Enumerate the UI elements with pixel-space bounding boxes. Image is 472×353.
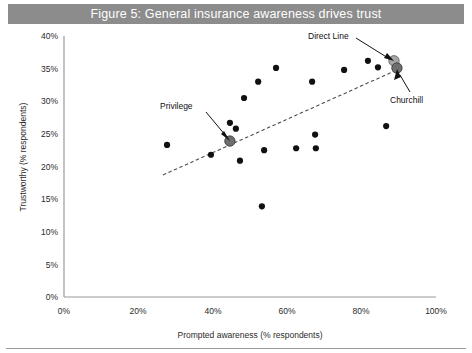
data-point <box>312 131 318 137</box>
data-point <box>255 79 261 85</box>
data-point <box>208 152 214 158</box>
trendline-path <box>163 70 397 175</box>
data-point <box>375 64 381 70</box>
data-point <box>259 203 265 209</box>
data-point <box>227 120 233 126</box>
data-point <box>233 126 239 132</box>
data-points-group <box>164 56 402 210</box>
plot-svg <box>0 0 472 353</box>
data-point <box>237 158 243 164</box>
data-point <box>164 142 170 148</box>
data-point <box>309 79 315 85</box>
leader-line-churchill <box>400 75 410 92</box>
data-point <box>341 67 347 73</box>
data-point <box>383 123 389 129</box>
annotation-leaders <box>206 38 410 141</box>
data-point <box>365 58 371 64</box>
data-point <box>313 145 319 151</box>
data-point <box>261 147 267 153</box>
data-point <box>293 145 299 151</box>
axes-group <box>64 36 436 297</box>
footer-divider <box>6 348 466 349</box>
figure-container: Figure 5: General insurance awareness dr… <box>0 0 472 353</box>
data-point <box>241 95 247 101</box>
trendline <box>163 70 397 175</box>
leader-line-direct-line <box>356 38 388 58</box>
scatter-plot: 40% 35% 30% 25% 20% 15% 10% 5% 0% 0% 20%… <box>0 0 472 353</box>
data-point <box>273 65 279 71</box>
